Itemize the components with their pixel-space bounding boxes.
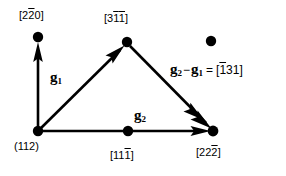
label-part: (112) <box>14 140 39 152</box>
g2-subscript: 2 <box>142 114 147 124</box>
origin-node <box>33 126 43 136</box>
equation-g1-subscript: 1 <box>199 68 204 78</box>
label-part: ] <box>131 149 134 161</box>
diagonal-arrow-head-secondary <box>184 103 204 120</box>
bottom-midpoint-node <box>123 126 133 136</box>
g1-arrow-shaft <box>38 50 120 131</box>
label-part: [11 <box>110 149 124 161</box>
label-part: 0] <box>35 9 44 21</box>
g1-subscript: 1 <box>58 76 63 86</box>
label-part: ] <box>125 12 128 24</box>
equation-equals-sign: = <box>203 63 216 77</box>
diagram-canvas <box>0 0 286 176</box>
label-part: ] <box>218 146 221 158</box>
label-origin-node: (112) <box>14 141 39 152</box>
g1-symbol: g <box>50 69 58 85</box>
equation-rhs-part: 31] <box>226 63 243 77</box>
g1-label: g1 <box>50 70 62 85</box>
top-left-node <box>33 32 43 42</box>
label-part: [22 <box>196 146 211 158</box>
isolated-node <box>206 36 216 46</box>
equation-g2-subscript: 2 <box>178 68 183 78</box>
label-right-node: [222] <box>196 147 221 158</box>
g2-symbol: g <box>134 107 142 123</box>
label-top-left-node: [220] <box>19 10 44 21</box>
g2-label: g2 <box>134 108 146 123</box>
equation-g2-symbol: g <box>170 61 178 77</box>
equation-minus-operator: − <box>182 63 191 77</box>
vector-equation: g2−g1=[131] <box>170 62 243 77</box>
label-bottom-midpoint-node: [111] <box>110 150 134 161</box>
figure-root: [220] [311] (112) [111] [222] g1 g2 g2−g… <box>0 0 286 176</box>
apex-node <box>122 37 132 47</box>
label-part: [3 <box>104 12 113 24</box>
label-apex-node: [311] <box>104 13 128 24</box>
label-part: [2 <box>19 9 28 21</box>
equation-g1-symbol: g <box>191 61 199 77</box>
right-node <box>208 126 219 137</box>
